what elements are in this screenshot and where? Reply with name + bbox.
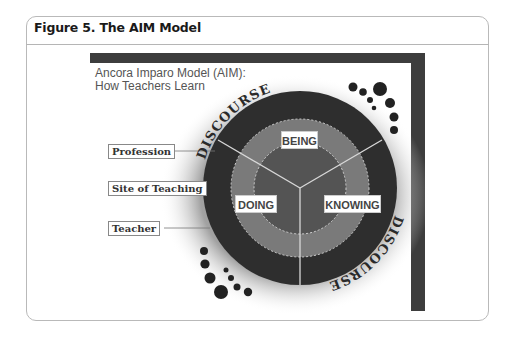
aim-model-diagram: DISCOURSE DISCOURSE: [0, 0, 516, 340]
side-label-profession: Profession: [108, 144, 175, 159]
segment-label-doing: DOING: [235, 195, 277, 213]
figure-subtitle: Ancora Imparo Model (AIM): How Teachers …: [95, 67, 295, 93]
side-label-teacher: Teacher: [108, 221, 160, 236]
segment-label-knowing: KNOWING: [324, 195, 381, 213]
side-label-site-of-teaching: Site of Teaching: [108, 181, 207, 196]
segment-label-being: BEING: [281, 131, 318, 149]
subtitle-line-2: How Teachers Learn: [95, 80, 295, 93]
